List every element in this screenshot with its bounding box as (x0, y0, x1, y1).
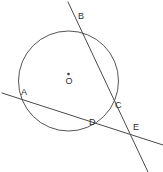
geometry-canvas (0, 0, 163, 172)
secant-line-bce (68, 2, 148, 172)
point-label-e: E (133, 123, 139, 132)
point-label-c: C (115, 101, 122, 110)
secant-line-ade (2, 93, 163, 145)
point-label-a: A (21, 88, 27, 97)
center-label-o: O (66, 77, 73, 86)
point-label-b: B (78, 12, 84, 21)
geometry-figure: O A B C D E (0, 0, 163, 172)
point-label-d: D (89, 118, 96, 127)
center-point-dot (67, 73, 70, 76)
